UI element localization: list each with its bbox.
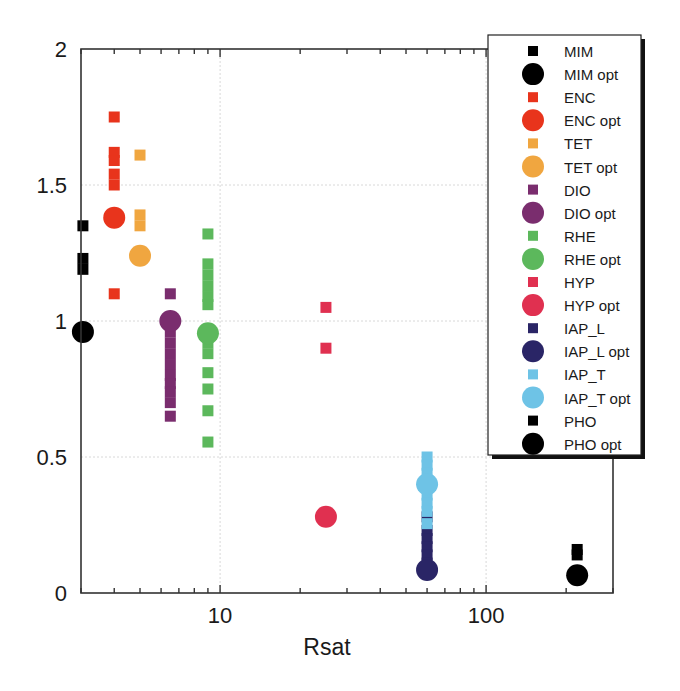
legend-label: IAP_L opt [564, 343, 630, 360]
square-marker [202, 299, 213, 310]
legend-label: IAP_L [564, 320, 605, 337]
square-marker [202, 269, 213, 280]
circle-marker [315, 506, 337, 528]
square-marker [165, 386, 176, 397]
legend-circle-icon [522, 202, 544, 224]
legend-label: IAP_T [564, 366, 606, 383]
square-marker [320, 302, 331, 313]
circle-marker [416, 559, 438, 581]
legend-label: DIO [564, 182, 591, 199]
x-tick-label: 100 [468, 603, 505, 628]
legend-square-icon [528, 92, 538, 102]
legend-square-icon [528, 323, 538, 333]
legend-circle-icon [522, 156, 544, 178]
legend-label: ENC opt [564, 112, 622, 129]
legend-square-icon [528, 185, 538, 195]
square-marker [77, 264, 88, 275]
x-tick-label: 10 [208, 603, 232, 628]
x-axis-label: Rsat [303, 634, 351, 660]
y-tick-label: 0 [55, 581, 67, 606]
square-marker [202, 384, 213, 395]
legend-circle-icon [522, 109, 544, 131]
square-marker [109, 169, 120, 180]
square-marker [202, 405, 213, 416]
legend-label: HYP opt [564, 297, 620, 314]
square-marker [202, 348, 213, 359]
y-tick-label: 1 [55, 309, 67, 334]
circle-marker [197, 322, 219, 344]
legend-square-icon [528, 46, 538, 56]
y-tick-label: 1.5 [36, 173, 67, 198]
square-marker [77, 253, 88, 264]
square-marker [135, 220, 146, 231]
square-marker [109, 112, 120, 123]
square-marker [135, 209, 146, 220]
square-marker [202, 437, 213, 448]
legend-circle-icon [522, 340, 544, 362]
circle-marker [159, 310, 181, 332]
legend-square-icon [528, 231, 538, 241]
legend-square-icon [528, 277, 538, 287]
legend-circle-icon [522, 433, 544, 455]
legend-square-icon [528, 369, 538, 379]
square-marker [422, 518, 433, 529]
legend-circle-icon [522, 387, 544, 409]
scatter-chart: 00.511.52 10100 Rsat MIMMIM optENCENC op… [0, 0, 680, 691]
y-tick-label: 0.5 [36, 445, 67, 470]
circle-marker [566, 564, 588, 586]
square-marker [165, 337, 176, 348]
legend-label: DIO opt [564, 205, 617, 222]
legend-square-icon [528, 416, 538, 426]
legend-label: MIM opt [564, 66, 619, 83]
square-marker [109, 155, 120, 166]
square-marker [165, 397, 176, 408]
legend-circle-icon [522, 63, 544, 85]
square-marker [202, 280, 213, 291]
square-marker [320, 343, 331, 354]
square-marker [165, 359, 176, 370]
y-tick-labels: 00.511.52 [36, 37, 67, 606]
square-marker [165, 348, 176, 359]
square-marker [165, 288, 176, 299]
square-marker [165, 411, 176, 422]
x-tick-labels: 10100 [208, 603, 505, 628]
legend-label: MIM [564, 43, 593, 60]
legend-label: RHE opt [564, 251, 622, 268]
legend-label: HYP [564, 274, 595, 291]
legend: MIMMIM optENCENC optTETTET optDIODIO opt… [488, 35, 645, 459]
circle-marker [416, 473, 438, 495]
circle-marker [72, 321, 94, 343]
circle-marker [103, 207, 125, 229]
legend-label: IAP_T opt [564, 390, 631, 407]
square-marker [109, 180, 120, 191]
legend-square-icon [528, 138, 538, 148]
square-marker [109, 288, 120, 299]
y-tick-label: 2 [55, 37, 67, 62]
square-marker [202, 258, 213, 269]
square-marker [135, 150, 146, 161]
legend-circle-icon [522, 294, 544, 316]
legend-label: TET opt [564, 159, 618, 176]
legend-label: TET [564, 135, 592, 152]
legend-label: PHO [564, 413, 597, 430]
legend-label: RHE [564, 228, 596, 245]
square-marker [77, 220, 88, 231]
legend-label: ENC [564, 89, 596, 106]
circle-marker [129, 245, 151, 267]
legend-label: PHO opt [564, 436, 622, 453]
square-marker [202, 228, 213, 239]
square-marker [202, 367, 213, 378]
legend-circle-icon [522, 248, 544, 270]
square-marker [572, 549, 583, 560]
square-marker [422, 506, 433, 517]
